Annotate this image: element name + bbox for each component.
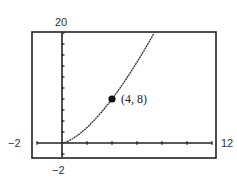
xmax-label: 12 (221, 137, 233, 149)
ymax-label: 20 (55, 16, 67, 28)
function-curve (62, 33, 154, 143)
graph-canvas: (4, 8) 20 −2 12 −2 (0, 0, 237, 178)
xmin-label: −2 (8, 137, 21, 149)
point-label: (4, 8) (121, 92, 147, 106)
highlighted-point-marker (108, 95, 115, 102)
ymin-label: −2 (52, 164, 65, 176)
